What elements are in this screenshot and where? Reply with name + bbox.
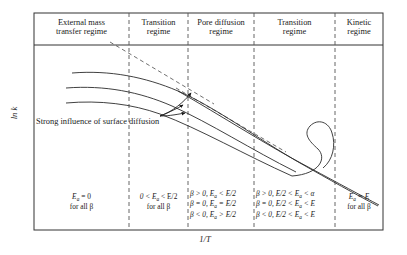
conditions-pore-diffusion: β > 0, Ea < E/2 β = 0, Ea = E/2 β < 0, E… [190, 190, 254, 221]
conditions-kinetic: Ea = E for all β [335, 193, 383, 211]
regime-header-line2: regime [254, 27, 335, 36]
condition-line-3: β < 0, E/2 < Ea < E [256, 211, 335, 221]
condition-relation: < E/2 [217, 189, 236, 198]
condition-prefix: β = 0, E/2 < E [256, 199, 299, 208]
condition-relation: > E/2 [217, 210, 236, 219]
regime-header-kinetic: Kinetic regime [335, 18, 383, 36]
y-axis-label: ln k [9, 93, 19, 133]
regime-header-line1: Kinetic [335, 18, 383, 27]
regime-header-line2: regime [129, 27, 188, 36]
condition-line-2: for all β [335, 203, 383, 211]
condition-prefix: β > 0, E/2 < E [256, 189, 299, 198]
surface-diffusion-annotation: Strong influence of surface diffusion [36, 117, 159, 126]
conditions-transition-left: 0 < Ea < E/2 for all β [129, 193, 188, 211]
condition-relation: < E [302, 210, 315, 219]
regime-header-line2: regime [188, 27, 254, 36]
condition-prefix: β > 0, E [190, 189, 214, 198]
condition-line-3: β < 0, Ea > E/2 [190, 211, 254, 221]
condition-relation: < α [302, 189, 315, 198]
regime-header-line1: Transition [129, 18, 188, 27]
regime-header-line2: regime [335, 27, 383, 36]
regime-header-transition-left: Transition regime [129, 18, 188, 36]
x-axis-label: 1/T [160, 234, 250, 244]
condition-line-2: for all β [34, 203, 129, 211]
conditions-external-mass-transfer: Ea = 0 for all β [34, 193, 129, 211]
regime-header-pore-diffusion: Pore diffusion regime [188, 18, 254, 36]
regime-header-external-mass-transfer: External mass transfer regime [34, 18, 129, 36]
condition-relation: = E/2 [217, 199, 236, 208]
regime-header-transition-right: Transition regime [254, 18, 335, 36]
regime-header-line1: External mass [34, 18, 129, 27]
condition-prefix: β < 0, E [190, 210, 214, 219]
regime-header-line2: transfer regime [34, 27, 129, 36]
condition-prefix: β < 0, E/2 < E [256, 210, 299, 219]
conditions-transition-right: β > 0, E/2 < Ea < α β = 0, E/2 < Ea < E … [256, 190, 335, 221]
regime-header-line1: Pore diffusion [188, 18, 254, 27]
figure-container: External mass transfer regime Transition… [0, 0, 407, 255]
symbol-E: 0 < E [140, 192, 157, 201]
condition-relation: < E/2 [159, 192, 177, 201]
condition-line-2: for all β [129, 203, 188, 211]
regime-header-line1: Transition [254, 18, 335, 27]
condition-prefix: β = 0, E [190, 199, 214, 208]
condition-relation: < E [302, 199, 315, 208]
condition-relation: = 0 [79, 192, 91, 201]
condition-relation: = E [356, 192, 369, 201]
